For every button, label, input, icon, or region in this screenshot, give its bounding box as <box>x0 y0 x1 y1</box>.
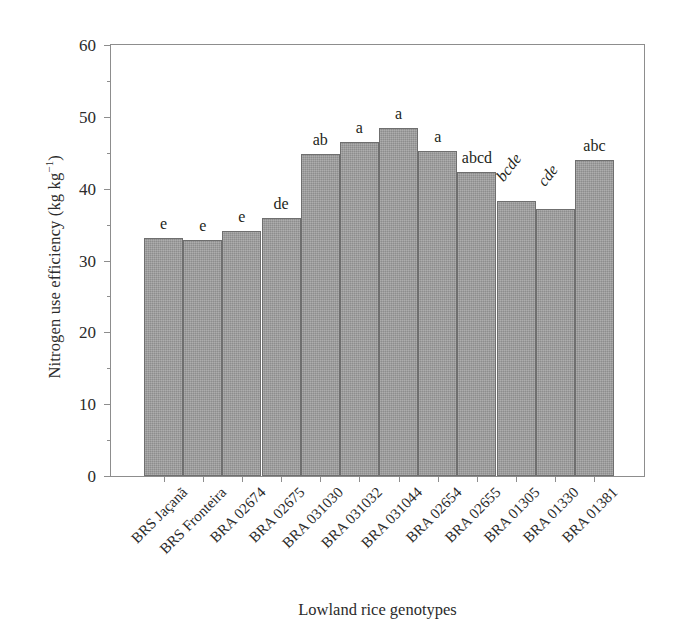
bar <box>497 201 536 476</box>
y-axis-tick: 60 <box>104 45 111 46</box>
y-axis-title-exponent: −1 <box>43 161 55 173</box>
y-axis-tick: 40 <box>104 189 111 190</box>
x-axis-tick <box>438 476 439 482</box>
bar-significance-label: cde <box>534 161 562 190</box>
y-axis-minor-tick <box>107 440 111 441</box>
bar-significance-label: e <box>199 217 206 235</box>
x-axis-tick <box>399 476 400 482</box>
x-axis-tick <box>203 476 204 482</box>
bar-significance-label: de <box>274 195 289 213</box>
y-axis-title-tail: ) <box>45 155 64 161</box>
bar-significance-label: e <box>238 208 245 226</box>
bar <box>418 151 457 476</box>
y-axis-title-text: Nitrogen use efficiency (kg kg <box>45 173 64 379</box>
bar <box>183 240 222 476</box>
plot-area: 0102030405060eeedeabaaaabcdbcdecdeabc <box>110 44 645 477</box>
y-axis-tick: 10 <box>104 404 111 405</box>
bar-significance-label: ab <box>313 131 328 149</box>
y-axis-tick-label: 30 <box>79 251 96 271</box>
y-axis-title: Nitrogen use efficiency (kg kg−1) <box>43 47 65 487</box>
x-axis-tick <box>359 476 360 482</box>
bar <box>340 142 379 476</box>
y-axis-tick-label: 0 <box>88 467 97 487</box>
bar-significance-label: abcd <box>462 149 492 167</box>
y-axis-minor-tick <box>107 153 111 154</box>
bar <box>301 154 340 476</box>
figure: Nitrogen use efficiency (kg kg−1) 010203… <box>0 0 693 634</box>
x-axis-tick <box>594 476 595 482</box>
x-axis-tick <box>242 476 243 482</box>
bar-significance-label: abc <box>583 137 605 155</box>
bar <box>222 231 261 476</box>
y-axis-tick-label: 10 <box>79 395 96 415</box>
x-axis-title: Lowland rice genotypes <box>110 600 645 620</box>
y-axis-tick: 0 <box>104 476 111 477</box>
bar <box>536 209 575 476</box>
y-axis-tick-label: 60 <box>79 36 96 56</box>
y-axis-minor-tick <box>107 81 111 82</box>
bar-significance-label: e <box>160 215 167 233</box>
x-axis-tick <box>281 476 282 482</box>
y-axis-tick-label: 40 <box>79 179 96 199</box>
y-axis-minor-tick <box>107 296 111 297</box>
bar <box>575 160 614 476</box>
x-axis-tick <box>555 476 556 482</box>
y-axis-tick: 30 <box>104 261 111 262</box>
bar-significance-label: a <box>356 119 363 137</box>
bar <box>379 128 418 476</box>
bar-significance-label: a <box>434 128 441 146</box>
y-axis-tick-label: 20 <box>79 323 96 343</box>
bar <box>144 238 183 476</box>
bar-significance-label: a <box>395 105 402 123</box>
x-axis-tick <box>164 476 165 482</box>
y-axis-tick-label: 50 <box>79 107 96 127</box>
y-axis-tick: 50 <box>104 117 111 118</box>
x-axis-tick <box>320 476 321 482</box>
y-axis-minor-tick <box>107 368 111 369</box>
y-axis-minor-tick <box>107 225 111 226</box>
x-axis-tick <box>477 476 478 482</box>
x-axis-tick <box>516 476 517 482</box>
bar-significance-label: bcde <box>493 150 526 185</box>
bar <box>262 218 301 476</box>
bar <box>457 172 496 476</box>
y-axis-tick: 20 <box>104 332 111 333</box>
